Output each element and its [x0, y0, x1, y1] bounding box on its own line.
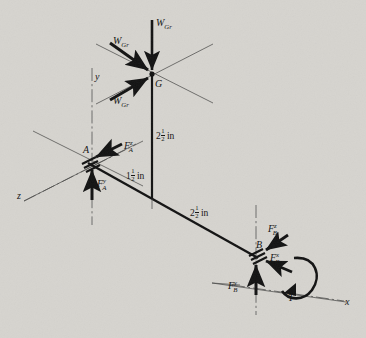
force-label-fbz-sup: z	[274, 222, 277, 229]
dimension-g-shaft-unit: in	[167, 131, 174, 141]
point-label-g: G	[155, 79, 162, 89]
force-label-fbx-sup: x	[276, 251, 279, 258]
node-dot-g	[149, 71, 154, 76]
dimension-a-offset-unit: in	[137, 171, 144, 181]
member-a-to-b	[88, 163, 258, 258]
dimension-a-b-whole: 2	[190, 208, 195, 218]
dimension-a-b-den: 2	[195, 212, 198, 220]
dimension-g-shaft-num: 1	[161, 128, 164, 135]
dimension-a-offset-whole: 1	[126, 171, 131, 181]
force-label-fby-sub: B	[233, 286, 237, 293]
force-label-faz: FzA	[124, 140, 133, 154]
center-lines	[24, 68, 344, 315]
force-label-fbz: FzB	[268, 223, 277, 237]
axis-lines	[24, 44, 346, 302]
dimension-g-shaft-fraction: 12	[161, 128, 164, 143]
force-label-fbz-sub: B	[273, 229, 277, 236]
force-label-fay-sub: A	[102, 184, 106, 191]
point-label-a: A	[83, 145, 89, 155]
dimension-label-a-offset: 112 in	[126, 168, 144, 183]
force-label-fay: FyA	[97, 178, 106, 192]
force-label-fbx: FxB	[270, 252, 279, 266]
axis-label-x: x	[345, 297, 349, 307]
support-hatch-b	[249, 249, 267, 264]
axis-label-z: z	[17, 191, 21, 201]
axis-label-y: y	[95, 72, 99, 82]
point-label-b: B	[256, 240, 262, 250]
dimension-label-g-shaft: 212 in	[156, 128, 174, 143]
force-label-faz-sub: A	[129, 146, 133, 153]
force-label-wgr-lower-sub: Gr	[121, 101, 129, 108]
force-arrow-faz	[96, 144, 122, 157]
torque-label-t: T	[288, 293, 294, 303]
dimension-label-a-b: 212 in	[190, 205, 208, 220]
force-label-wgr-top: WGr	[156, 18, 172, 31]
force-arrow-fbz	[266, 235, 288, 250]
force-label-faz-sup: z	[130, 139, 133, 146]
force-label-wgr-upper-sub: Gr	[121, 41, 129, 48]
force-label-fby: FyB	[228, 280, 237, 294]
diagram-canvas	[0, 0, 366, 338]
force-label-fbx-sub: B	[275, 258, 279, 265]
dimension-a-offset-den: 2	[131, 175, 134, 183]
force-label-fby-sup: y	[234, 279, 237, 286]
force-label-wgr-top-sub: Gr	[164, 23, 172, 30]
dimension-a-offset-num: 1	[131, 168, 134, 175]
free-body-diagram: y z x G A B WGr WGr WGr FzA FyA FzB FxB …	[0, 0, 366, 338]
dimension-a-b-fraction: 12	[195, 205, 198, 220]
dimension-g-shaft-whole: 2	[156, 131, 161, 141]
dimension-a-b-unit: in	[201, 208, 208, 218]
dimension-a-offset-fraction: 12	[131, 168, 134, 183]
force-label-wgr-upper: WGr	[113, 36, 129, 49]
force-label-fay-sup: y	[103, 177, 106, 184]
force-label-wgr-lower: WGr	[113, 96, 129, 109]
dimension-g-shaft-den: 2	[161, 135, 164, 143]
dimension-a-b-num: 1	[195, 205, 198, 212]
